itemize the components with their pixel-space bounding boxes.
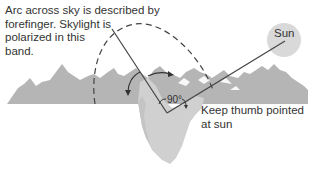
arc-caption: Arc across sky is described by forefinge… bbox=[5, 4, 155, 58]
sun-label: Sun bbox=[274, 27, 294, 41]
thumb-caption-line: Keep thumb pointed bbox=[201, 104, 304, 118]
arc-caption-line: Arc across sky is described by bbox=[5, 4, 155, 18]
arc-caption-line: forefinger. Skylight is bbox=[5, 18, 155, 32]
arc-caption-line: band. bbox=[5, 45, 155, 59]
angle-label: 90° bbox=[167, 93, 182, 107]
thumb-caption: Keep thumb pointed at sun bbox=[201, 104, 304, 131]
arc-caption-line: polarized in this bbox=[5, 31, 155, 45]
thumb-caption-line: at sun bbox=[201, 118, 304, 132]
